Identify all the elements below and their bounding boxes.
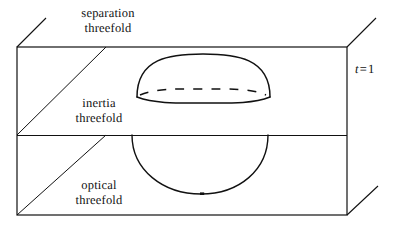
label-optical-line1: optical xyxy=(60,178,138,193)
label-inertia-threefold: inertia threefold xyxy=(60,96,138,126)
lower-sphere-arc xyxy=(132,135,268,194)
edge-top-left-receding xyxy=(17,18,46,47)
label-optical-threefold: optical threefold xyxy=(60,178,138,208)
label-inertia-line1: inertia xyxy=(60,96,138,111)
edge-bottom-right-receding xyxy=(347,186,378,215)
label-t-number: 1 xyxy=(368,62,374,76)
sphere-bottom-marker xyxy=(200,192,204,195)
label-optical-line2: threefold xyxy=(60,193,138,208)
label-separation-threefold: separation threefold xyxy=(60,6,156,36)
edge-top-right-receding xyxy=(347,18,376,47)
label-t-equals-one: t=1 xyxy=(355,62,374,77)
figure-container: separation threefold inertia threefold o… xyxy=(0,0,395,233)
dome-equator-back-dashed xyxy=(140,89,266,95)
label-separation-line1: separation xyxy=(60,6,156,21)
dome-equator-front xyxy=(137,97,270,103)
label-separation-line2: threefold xyxy=(60,21,156,36)
label-t-operator: = xyxy=(359,62,368,76)
label-inertia-line2: threefold xyxy=(60,111,138,126)
